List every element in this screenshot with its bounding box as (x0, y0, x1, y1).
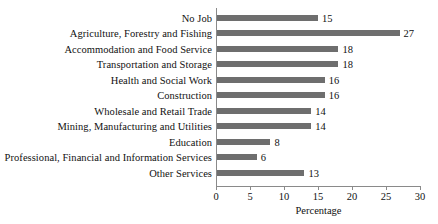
bar-value-label: 18 (342, 59, 353, 70)
bar-value-label: 18 (342, 43, 353, 54)
bar-row: Mining, Manufacturing and Utilities14 (216, 119, 420, 135)
bar-row: Education8 (216, 134, 420, 150)
bar (216, 46, 338, 52)
bar-value-label: 16 (329, 90, 340, 101)
category-label: Education (169, 136, 212, 147)
x-tick-label: 10 (279, 191, 290, 203)
bar (216, 92, 325, 98)
category-label: Transportation and Storage (97, 59, 212, 70)
x-tick-mark (386, 186, 387, 190)
bar-value-label: 14 (315, 105, 326, 116)
bar (216, 108, 311, 114)
category-label: No Job (182, 12, 212, 23)
bar-value-label: 13 (308, 167, 319, 178)
bar-value-label: 14 (315, 121, 326, 132)
x-tick-label: 0 (213, 191, 218, 203)
category-label: Agriculture, Forestry and Fishing (70, 28, 212, 39)
bar-value-label: 16 (329, 74, 340, 85)
bar (216, 77, 325, 83)
bar-row: No Job15 (216, 10, 420, 26)
plot-area: No Job15Agriculture, Forestry and Fishin… (216, 8, 420, 184)
x-tick-mark (250, 186, 251, 190)
bar (216, 15, 318, 21)
bar-row: Professional, Financial and Information … (216, 150, 420, 166)
bar (216, 123, 311, 129)
bar-value-label: 6 (261, 152, 266, 163)
x-tick-mark (352, 186, 353, 190)
bar (216, 154, 257, 160)
x-tick-label: 30 (415, 191, 426, 203)
category-label: Accommodation and Food Service (64, 43, 212, 54)
bar (216, 170, 304, 176)
bar-row: Wholesale and Retail Trade14 (216, 103, 420, 119)
category-label: Construction (157, 90, 212, 101)
bar (216, 61, 338, 67)
x-axis-title: Percentage (216, 205, 421, 217)
bar-row: Transportation and Storage18 (216, 57, 420, 73)
x-tick-mark (318, 186, 319, 190)
bar-row: Other Services13 (216, 165, 420, 181)
bar-row: Health and Social Work16 (216, 72, 420, 88)
bar-value-label: 15 (322, 12, 333, 23)
category-label: Professional, Financial and Information … (5, 152, 212, 163)
y-axis-line (216, 8, 217, 186)
x-tick-label: 15 (313, 191, 324, 203)
x-tick-label: 20 (347, 191, 358, 203)
bar-row: Agriculture, Forestry and Fishing27 (216, 26, 420, 42)
category-label: Wholesale and Retail Trade (94, 105, 212, 116)
category-label: Other Services (149, 167, 212, 178)
bar-row: Accommodation and Food Service18 (216, 41, 420, 57)
x-tick-label: 5 (247, 191, 252, 203)
bar (216, 139, 270, 145)
x-tick-mark (420, 186, 421, 190)
bar-row: Construction16 (216, 88, 420, 104)
category-label: Health and Social Work (111, 74, 212, 85)
bar (216, 30, 400, 36)
bar-value-label: 8 (274, 136, 279, 147)
bar-value-label: 27 (404, 28, 415, 39)
category-label: Mining, Manufacturing and Utilities (57, 121, 212, 132)
x-tick-mark (284, 186, 285, 190)
x-tick-label: 25 (381, 191, 392, 203)
bar-chart: No Job15Agriculture, Forestry and Fishin… (0, 0, 438, 224)
x-tick-mark (216, 186, 217, 190)
